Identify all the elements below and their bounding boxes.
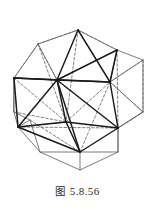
solid-edge xyxy=(110,82,118,128)
hidden-edge xyxy=(14,112,66,122)
caption-label: 图 xyxy=(55,185,65,197)
solid-edge xyxy=(57,80,80,152)
polyhedron-diagram xyxy=(0,0,155,182)
hidden-edge xyxy=(110,60,143,82)
solid-edge xyxy=(110,50,117,82)
solid-edge xyxy=(18,80,57,127)
hidden-edge xyxy=(38,44,57,80)
hidden-edge xyxy=(80,82,110,152)
solid-edge xyxy=(80,128,118,152)
figure-caption: 图5.8.56 xyxy=(0,183,155,198)
solid-edge xyxy=(66,122,118,128)
caption-number: 5.8.56 xyxy=(70,185,100,197)
figure-page: 图5.8.56 xyxy=(0,0,155,210)
hidden-edge xyxy=(118,112,143,128)
solid-edge xyxy=(14,78,110,82)
solid-edge xyxy=(57,50,117,80)
